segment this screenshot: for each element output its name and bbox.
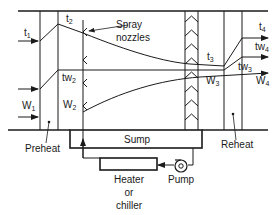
label-t3: t3 — [207, 51, 214, 63]
label-t4: t4 — [259, 21, 266, 33]
label-w2: W2 — [63, 99, 76, 111]
label-w4: W4 — [256, 75, 269, 87]
label-pump: Pump — [168, 174, 195, 185]
label-t2: t2 — [66, 13, 73, 25]
label-sump: Sump — [124, 134, 151, 145]
nozzle-icon — [83, 56, 87, 64]
label-t1: t1 — [24, 27, 31, 39]
label-w3: W3 — [206, 75, 219, 87]
heater-chiller-box — [100, 158, 157, 170]
label-chiller: chiller — [116, 200, 143, 211]
label-spray-nozzles-1: Spray — [116, 19, 142, 30]
dry-bulb-curve — [18, 24, 268, 66]
air-washer-diagram: t1 t2 t3 t4 tw2 tw3 tw4 W1 W2 W3 W4 Spra… — [0, 0, 280, 215]
pump-icon — [175, 160, 187, 172]
nozzle-icon — [83, 79, 87, 87]
nozzle-icon — [83, 102, 87, 110]
label-heater: Heater — [114, 174, 145, 185]
label-w1: W1 — [22, 100, 35, 112]
label-tw2: tw2 — [62, 72, 76, 84]
wet-bulb-line — [18, 57, 268, 89]
label-or: or — [125, 187, 135, 198]
label-spray-nozzles-2: nozzles — [116, 32, 150, 43]
humidity-ratio-curve — [18, 73, 268, 117]
preheat-coil — [40, 11, 58, 143]
label-preheat: Preheat — [25, 143, 60, 154]
label-tw3: tw3 — [238, 61, 252, 73]
label-tw4: tw4 — [255, 41, 269, 53]
label-reheat: Reheat — [221, 139, 253, 150]
